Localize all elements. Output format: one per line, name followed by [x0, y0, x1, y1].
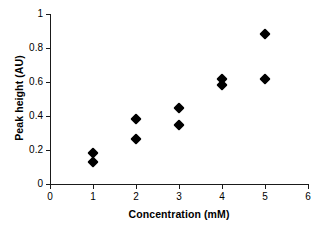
y-tick-mark: [46, 116, 51, 117]
x-tick-label: 3: [169, 192, 189, 202]
x-tick-mark: [222, 184, 223, 189]
x-tick-mark: [93, 184, 94, 189]
y-axis-line: [50, 14, 51, 184]
x-tick-label: 1: [83, 192, 103, 202]
x-tick-label: 6: [298, 192, 318, 202]
data-point: [130, 114, 141, 125]
y-tick-mark: [46, 150, 51, 151]
data-point: [259, 28, 270, 39]
x-tick-label: 4: [212, 192, 232, 202]
y-axis-title: Peak height (AU): [13, 13, 25, 183]
x-tick-mark: [308, 184, 309, 189]
data-point: [259, 74, 270, 85]
y-tick-mark: [46, 82, 51, 83]
plot-area: 00.20.40.60.81 0123456: [50, 14, 308, 184]
data-point: [87, 156, 98, 167]
y-tick-mark: [46, 14, 51, 15]
x-tick-label: 2: [126, 192, 146, 202]
data-point: [130, 133, 141, 144]
x-tick-label: 5: [255, 192, 275, 202]
x-tick-mark: [179, 184, 180, 189]
x-tick-mark: [136, 184, 137, 189]
data-point: [173, 119, 184, 130]
data-point: [216, 80, 227, 91]
y-tick-mark: [46, 48, 51, 49]
data-point: [173, 103, 184, 114]
x-tick-label: 0: [40, 192, 60, 202]
x-axis-title: Concentration (mM): [50, 208, 308, 220]
x-tick-mark: [50, 184, 51, 189]
scatter-chart: 00.20.40.60.81 0123456 Concentration (mM…: [0, 0, 325, 233]
x-tick-mark: [265, 184, 266, 189]
